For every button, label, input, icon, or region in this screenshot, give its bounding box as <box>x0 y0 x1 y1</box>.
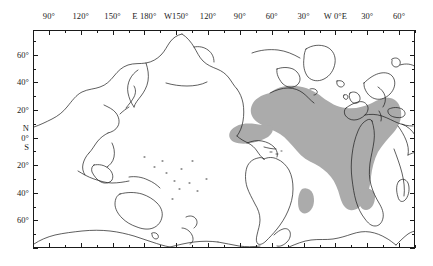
lon-tick-bottom <box>304 243 305 248</box>
lon-tick-top <box>256 30 257 33</box>
coastline-antarctica <box>34 230 170 247</box>
longitude-label-7: 60° <box>266 11 278 21</box>
coastline-canada-arctic <box>252 50 300 58</box>
coastline-red-sea <box>398 126 408 155</box>
lat-tick-left <box>33 179 36 180</box>
lat-tick-left <box>33 207 36 208</box>
lat-tick-right <box>410 193 415 194</box>
lon-tick-top <box>383 30 384 33</box>
longitude-label-8: 30° <box>297 11 309 21</box>
lon-tick-bottom <box>49 243 50 248</box>
lon-tick-top <box>160 30 161 33</box>
coastline-alaska <box>182 34 237 89</box>
coastline-new-zealand-north <box>186 216 197 228</box>
lat-tick-left <box>33 220 38 221</box>
coastline-new-zealand-south <box>182 228 193 244</box>
coastline-china-south <box>89 133 108 153</box>
coastline-greenland <box>304 45 336 80</box>
lon-tick-bottom <box>144 243 145 248</box>
longitude-label-9: W 0°E <box>324 11 347 21</box>
lat-tick-right <box>410 110 415 111</box>
coastline-borneo <box>92 165 113 183</box>
coastline-hudson-bay <box>277 68 300 88</box>
coastline-east-asia <box>34 34 182 127</box>
lat-tick-left <box>33 69 36 70</box>
lon-tick-bottom <box>399 243 400 248</box>
lat-tick-left <box>33 41 36 42</box>
coastline-korea-china <box>104 105 119 133</box>
lat-tick-right <box>412 69 415 70</box>
latitude-label-1: 40° <box>17 77 29 87</box>
lat-tick-right <box>412 207 415 208</box>
latitude-label-2: 20° <box>17 105 29 115</box>
lon-tick-top <box>129 30 130 33</box>
lat-tick-right <box>410 82 415 83</box>
lon-tick-bottom <box>256 245 257 248</box>
lon-tick-top <box>192 30 193 33</box>
latitude-label-5: S <box>24 142 29 152</box>
lat-tick-left <box>33 96 36 97</box>
lon-tick-bottom <box>160 245 161 248</box>
lat-tick-left <box>33 165 38 166</box>
lon-tick-top <box>49 30 50 35</box>
lat-tick-left <box>33 82 38 83</box>
coastline-arctic-russia <box>400 64 415 67</box>
lon-tick-bottom <box>224 245 225 248</box>
lon-tick-top <box>351 30 352 33</box>
lon-tick-bottom <box>240 243 241 248</box>
lon-tick-bottom <box>351 245 352 248</box>
lat-tick-left <box>33 138 38 139</box>
lat-tick-left <box>33 110 38 111</box>
lat-tick-left <box>33 124 36 125</box>
coastline-sumatra-java <box>78 171 129 183</box>
lat-tick-right <box>410 220 415 221</box>
longitude-label-2: 150° <box>104 11 121 21</box>
lon-tick-top <box>208 30 209 35</box>
map-plot-area <box>33 30 415 248</box>
lon-tick-top <box>367 30 368 35</box>
lat-tick-right <box>410 248 415 249</box>
coastline-pacific-islands <box>144 157 207 199</box>
lat-tick-left <box>33 248 38 249</box>
map-canvas <box>34 31 415 248</box>
coastline-aleutians <box>166 82 207 86</box>
lon-tick-top <box>81 30 82 35</box>
latitude-label-8: 60° <box>17 215 29 225</box>
lon-tick-bottom <box>113 243 114 248</box>
latitude-label-0: 60° <box>17 50 29 60</box>
longitude-label-4: W150° <box>164 11 189 21</box>
coastline-ireland <box>343 95 348 100</box>
lon-tick-top <box>240 30 241 35</box>
coastline-new-guinea <box>129 177 160 188</box>
lon-tick-top <box>33 30 34 33</box>
lat-tick-left <box>33 151 36 152</box>
coastline-madagascar <box>397 179 409 201</box>
longitude-label-1: 120° <box>72 11 89 21</box>
coastline-east-africa <box>394 149 404 196</box>
longitude-label-0: 90° <box>43 11 55 21</box>
lon-tick-top <box>288 30 289 33</box>
lon-tick-top <box>335 30 336 35</box>
latitude-label-3: N <box>23 123 29 133</box>
lon-tick-bottom <box>288 245 289 248</box>
coastline-south-america <box>246 158 294 245</box>
lon-tick-bottom <box>192 245 193 248</box>
lon-tick-bottom <box>65 245 66 248</box>
lat-tick-right <box>412 151 415 152</box>
lon-tick-bottom <box>176 243 177 248</box>
lon-tick-bottom <box>335 243 336 248</box>
lon-tick-bottom <box>97 245 98 248</box>
lat-tick-right <box>410 138 415 139</box>
lon-tick-top <box>272 30 273 35</box>
coastline-tasmania <box>152 233 158 239</box>
shaded-range-caribbean <box>229 124 273 144</box>
lon-tick-bottom <box>272 243 273 248</box>
longitude-label-3: E 180° <box>132 11 156 21</box>
coastline-antarctica-east <box>289 232 396 247</box>
lat-tick-right <box>412 41 415 42</box>
coastline-kamchatka <box>134 63 148 107</box>
lon-tick-top <box>224 30 225 33</box>
lon-tick-top <box>113 30 114 35</box>
lon-tick-bottom <box>383 245 384 248</box>
coastline-iceland <box>337 81 345 87</box>
